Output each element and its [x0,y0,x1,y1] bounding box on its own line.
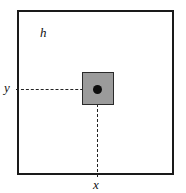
center-point-marker [93,85,102,94]
y-axis-label: y [4,81,10,94]
x-axis-label: x [93,178,99,191]
region-label: h [40,26,47,39]
diagram-canvas: h y x [0,0,186,193]
